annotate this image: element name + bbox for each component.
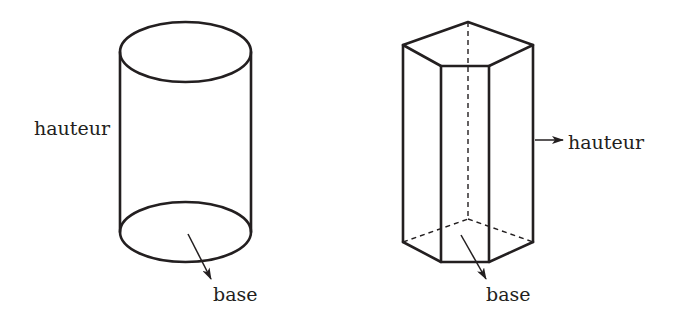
cylinder-top-base: [120, 22, 251, 82]
prism-base-arrow: [461, 235, 486, 279]
cylinder: hauteur base: [34, 22, 258, 305]
cylinder-bottom-base: [120, 202, 251, 262]
cylinder-base-label: base: [213, 283, 258, 305]
cylinder-height-label: hauteur: [34, 117, 111, 139]
prism-hidden-base-edge-right: [468, 219, 533, 242]
pentagonal-prism: hauteur base: [403, 22, 645, 305]
prism-base-label: base: [486, 283, 531, 305]
geometry-diagram: hauteur base hauteur base: [0, 0, 674, 322]
cylinder-base-arrow: [188, 234, 211, 279]
prism-hidden-base-edge-left: [403, 219, 468, 242]
prism-bottom-base-visible: [403, 242, 533, 262]
prism-height-label: hauteur: [568, 131, 645, 153]
